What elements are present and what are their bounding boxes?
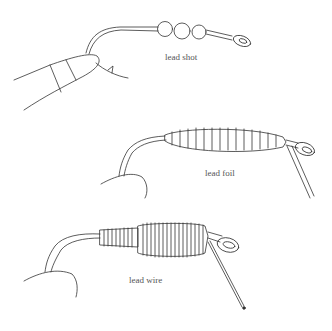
shot-bead-2 [174,23,190,39]
lead-wire-figure [24,223,245,309]
shot-bead-1 [158,22,173,37]
weighting-diagram [0,0,332,331]
shot-bead-3 [192,25,206,39]
lead-shot-figure [14,22,252,111]
lead-foil-label: lead foil [205,168,235,178]
lead-foil-figure [101,128,316,198]
lead-wire-label: lead wire [129,275,162,285]
lead-shot-label: lead shot [165,52,197,62]
